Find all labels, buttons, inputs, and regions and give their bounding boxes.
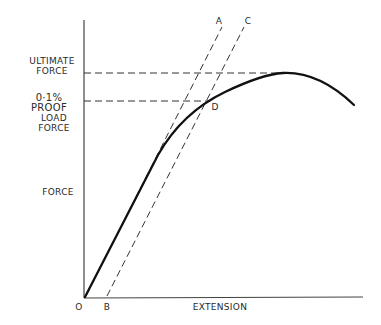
line-bc-dashed: [107, 27, 244, 296]
point-a-label: A: [214, 16, 224, 26]
proof-label-line3: FORCE: [26, 123, 82, 133]
proof-label-line1: 0·1% PROOF: [16, 93, 82, 113]
point-b-label: B: [102, 302, 112, 312]
proof-load-force-label: 0·1% PROOF LOAD FORCE: [14, 93, 82, 133]
point-d-label: D: [210, 102, 220, 112]
x-axis-label: EXTENSION: [180, 302, 260, 312]
force-extension-diagram: [0, 0, 381, 325]
ultimate-label-line2: FORCE: [22, 66, 82, 76]
origin-label: O: [74, 302, 84, 312]
y-axis-label: FORCE: [38, 187, 78, 197]
ultimate-force-label: ULTIMATE FORCE: [22, 56, 82, 76]
point-c-label: C: [243, 16, 253, 26]
ultimate-label-line1: ULTIMATE: [22, 56, 82, 66]
x-axis: [84, 297, 363, 298]
proof-label-line2: LOAD: [26, 113, 82, 123]
